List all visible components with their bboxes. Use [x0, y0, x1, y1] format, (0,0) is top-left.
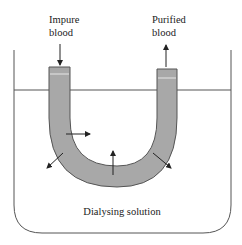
inlet-label-line2: blood	[49, 27, 74, 38]
dialysis-diagram: Impure blood Purified blood Dialysing so…	[0, 0, 242, 245]
solution-label: Dialysing solution	[83, 206, 161, 217]
outlet-label-line2: blood	[152, 27, 177, 38]
inlet-label-line1: Impure	[49, 14, 80, 25]
outlet-label-line1: Purified	[152, 14, 187, 25]
